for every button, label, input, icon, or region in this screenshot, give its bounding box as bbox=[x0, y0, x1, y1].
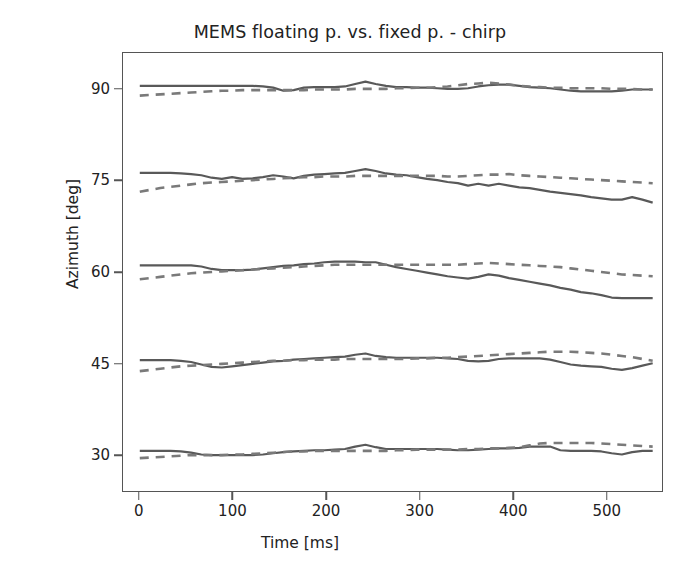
chart-figure: MEMS floating p. vs. fixed p. - chirp 30… bbox=[0, 0, 700, 573]
y-tick-label: 75 bbox=[91, 171, 110, 189]
x-tick-mark bbox=[325, 492, 327, 500]
y-tick-mark bbox=[114, 363, 122, 365]
x-axis-label: Time [ms] bbox=[0, 534, 700, 552]
x-tick-mark bbox=[512, 492, 514, 500]
series-line bbox=[140, 169, 653, 202]
plot-area bbox=[122, 52, 663, 492]
plot-lines bbox=[123, 53, 662, 491]
y-tick-mark bbox=[114, 88, 122, 90]
y-tick-mark bbox=[114, 271, 122, 273]
x-tick-label: 0 bbox=[134, 502, 144, 520]
series-line bbox=[140, 82, 653, 92]
y-tick-label: 30 bbox=[91, 446, 110, 464]
y-axis-label: Azimuth [deg] bbox=[64, 149, 82, 319]
y-tick-label: 90 bbox=[91, 80, 110, 98]
x-tick-label: 500 bbox=[593, 502, 622, 520]
series-line bbox=[140, 354, 653, 370]
y-tick-label: 60 bbox=[91, 263, 110, 281]
x-tick-mark bbox=[419, 492, 421, 500]
x-tick-mark bbox=[138, 492, 140, 500]
x-tick-label: 400 bbox=[499, 502, 528, 520]
x-tick-label: 200 bbox=[312, 502, 341, 520]
y-tick-mark bbox=[114, 455, 122, 457]
x-axis-label-text: Time [ms] bbox=[261, 534, 339, 552]
series-line bbox=[140, 263, 653, 279]
x-tick-label: 300 bbox=[405, 502, 434, 520]
x-tick-mark bbox=[606, 492, 608, 500]
y-tick-label: 45 bbox=[91, 355, 110, 373]
y-tick-mark bbox=[114, 180, 122, 182]
series-line bbox=[140, 262, 653, 299]
series-line bbox=[140, 174, 653, 192]
x-tick-label: 100 bbox=[218, 502, 247, 520]
x-tick-mark bbox=[232, 492, 234, 500]
series-line bbox=[140, 83, 653, 96]
